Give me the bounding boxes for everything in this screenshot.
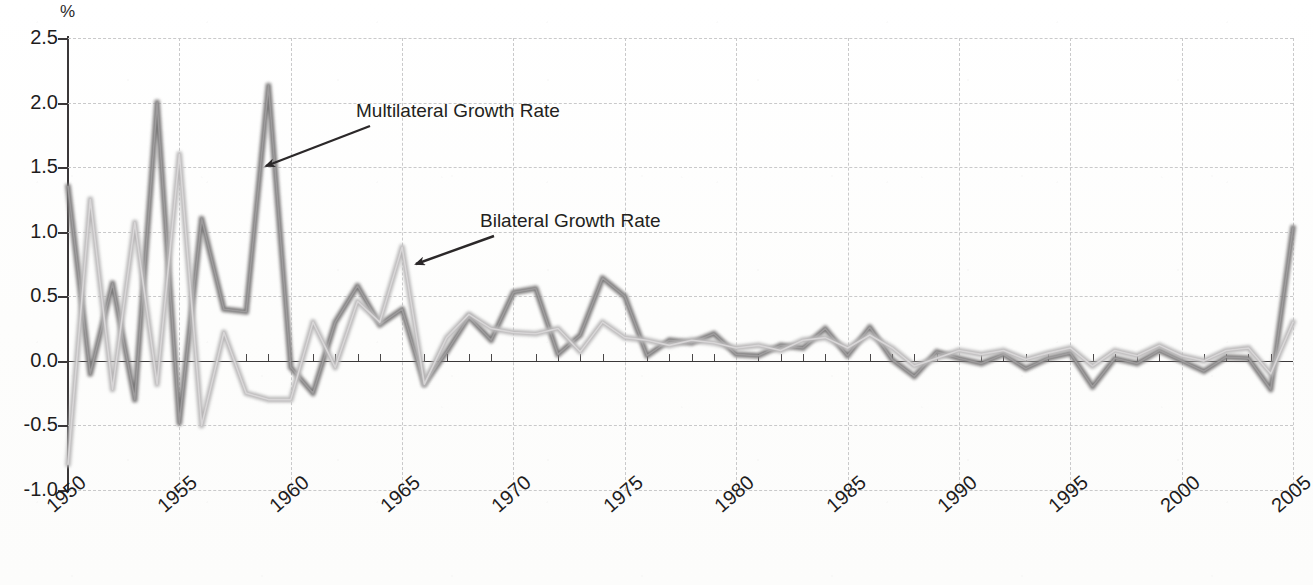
y-axis-unit-label: % <box>60 2 75 22</box>
y-tick-label: -0.5 <box>2 414 58 434</box>
x-axis-tick-labels: 1950195519601965197019751980198519901995… <box>0 490 1313 585</box>
y-axis-tick <box>58 296 68 298</box>
cropped-title <box>0 0 1313 9</box>
y-axis-tick <box>58 361 68 363</box>
chart-figure: % 2.52.01.51.00.50.0-0.5-1.0 Multilatera… <box>0 0 1313 585</box>
annotation-arrow <box>266 126 370 166</box>
gridline-vertical <box>1293 38 1294 490</box>
plot-area: Multilateral Growth Rate Bilateral Growt… <box>68 38 1293 490</box>
annotation-arrow <box>416 236 494 264</box>
y-axis-tick <box>58 38 68 40</box>
y-axis-tick <box>58 425 68 427</box>
y-axis-tick <box>58 103 68 105</box>
annotation-label-bilateral: Bilateral Growth Rate <box>480 210 661 232</box>
y-tick-label: 2.5 <box>2 27 58 47</box>
annotation-label-multilateral: Multilateral Growth Rate <box>356 100 560 122</box>
y-tick-label: 1.5 <box>2 156 58 176</box>
y-axis-tick <box>58 232 68 234</box>
y-axis-tick <box>58 167 68 169</box>
annotation-arrows <box>68 38 1293 490</box>
y-tick-label: 1.0 <box>2 221 58 241</box>
y-tick-label: 0.0 <box>2 350 58 370</box>
y-tick-label: 0.5 <box>2 285 58 305</box>
y-tick-label: 2.0 <box>2 92 58 112</box>
